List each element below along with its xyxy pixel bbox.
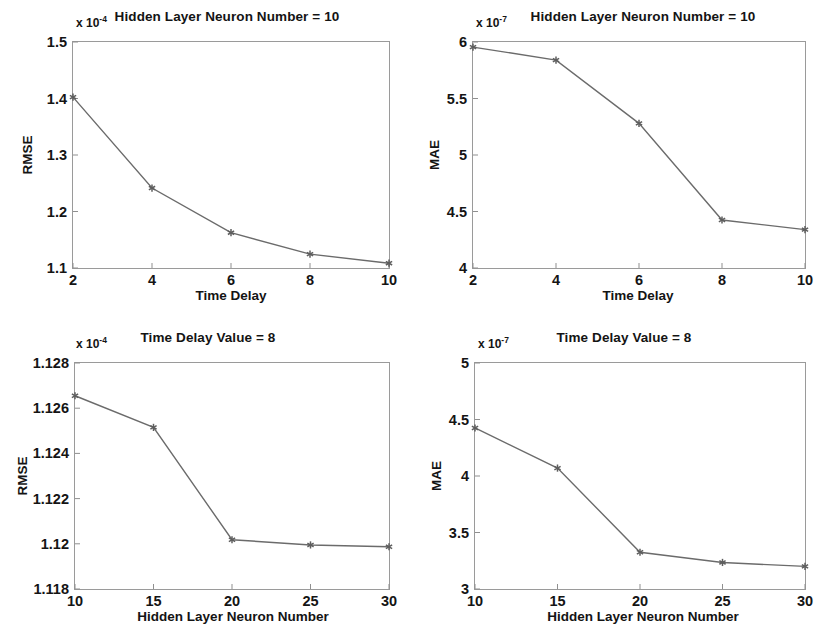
x-tick-label: 30 <box>797 593 813 609</box>
y-tick-label: 1.118 <box>34 581 70 597</box>
y-tick-label: 3.5 <box>449 525 469 541</box>
y-tick-label: 4 <box>461 468 469 484</box>
y-axis-label: MAE <box>427 140 442 170</box>
series-line <box>473 47 805 230</box>
series-line <box>475 428 805 566</box>
x-tick-label: 15 <box>145 593 161 609</box>
x-tick-label: 30 <box>381 593 397 609</box>
x-axis-label: Time Delay <box>195 288 266 303</box>
x-axis-label: Hidden Layer Neuron Number <box>547 609 738 624</box>
y-tick-label: 1.2 <box>47 204 67 220</box>
y-tick-label: 4 <box>459 260 467 276</box>
chart-panel-rmse-time-delay: Hidden Layer Neuron Number = 10 x 10-4 R… <box>0 0 416 321</box>
x-tick-label: 25 <box>714 593 730 609</box>
x-tick-label: 10 <box>381 272 397 288</box>
x-tick-label: 4 <box>148 272 156 288</box>
y-tick-label: 1.128 <box>33 355 69 371</box>
figure-canvas: Hidden Layer Neuron Number = 10 x 10-4 R… <box>0 0 832 642</box>
y-tick-label: 1.124 <box>33 445 69 461</box>
y-axis-exponent: x 10-4 <box>76 14 107 30</box>
x-tick-label: 6 <box>635 272 643 288</box>
series-line <box>75 396 389 547</box>
y-tick-label: 5.5 <box>447 91 467 107</box>
chart-title: Time Delay Value = 8 <box>0 330 416 345</box>
chart-title: Hidden Layer Neuron Number = 10 <box>0 9 416 24</box>
y-axis-exponent: x 10-7 <box>478 335 509 351</box>
chart-panel-mae-time-delay: Hidden Layer Neuron Number = 10 x 10-7 M… <box>416 0 832 321</box>
x-tick-label: 4 <box>552 272 560 288</box>
x-tick-label: 20 <box>632 593 648 609</box>
x-axis-label: Time Delay <box>602 288 673 303</box>
y-tick-label: 5 <box>461 355 469 371</box>
series-line <box>73 97 389 263</box>
y-tick-label: 1.5 <box>47 34 67 50</box>
y-tick-label: 4.5 <box>447 204 467 220</box>
x-tick-label: 20 <box>224 593 240 609</box>
y-axis-label: MAE <box>429 461 444 491</box>
plot-series-svg <box>473 42 807 270</box>
plot-series-svg <box>475 363 807 591</box>
y-tick-label: 1.126 <box>33 400 69 416</box>
x-tick-label: 8 <box>718 272 726 288</box>
y-axis-exponent: x 10-4 <box>76 335 107 351</box>
x-tick-label: 10 <box>67 593 83 609</box>
y-tick-label: 1.4 <box>47 91 67 107</box>
chart-panel-rmse-neuron-number: Time Delay Value = 8 x 10-4 RMSE Hidden … <box>0 321 416 642</box>
x-tick-label: 6 <box>227 272 235 288</box>
plot-area: 33.544.551015202530 <box>474 362 806 590</box>
plot-area: 44.555.56246810 <box>472 41 806 269</box>
x-tick-label: 2 <box>69 272 77 288</box>
plot-series-svg <box>75 363 391 591</box>
y-axis-label: RMSE <box>20 135 35 174</box>
plot-area: 1.1181.121.1221.1241.1261.1281015202530 <box>74 362 390 590</box>
data-point-marker <box>72 392 78 399</box>
y-tick-label: 4.5 <box>449 412 469 428</box>
y-tick-label: 1.12 <box>41 536 69 552</box>
x-tick-label: 10 <box>467 593 483 609</box>
x-axis-label: Hidden Layer Neuron Number <box>137 609 328 624</box>
y-axis-label: RMSE <box>15 456 30 495</box>
x-tick-label: 8 <box>306 272 314 288</box>
y-tick-label: 1.122 <box>33 491 69 507</box>
y-tick-label: 1.3 <box>47 147 67 163</box>
x-tick-label: 2 <box>469 272 477 288</box>
y-tick-label: 6 <box>459 34 467 50</box>
y-axis-exponent: x 10-7 <box>476 14 507 30</box>
plot-series-svg <box>73 42 391 270</box>
x-tick-label: 10 <box>797 272 813 288</box>
x-tick-label: 15 <box>549 593 565 609</box>
plot-area: 1.11.21.31.41.5246810 <box>72 41 390 269</box>
data-point-marker <box>472 424 478 431</box>
y-tick-label: 1.1 <box>47 260 67 276</box>
x-tick-label: 25 <box>302 593 318 609</box>
chart-panel-mae-neuron-number: Time Delay Value = 8 x 10-7 MAE Hidden L… <box>416 321 832 642</box>
y-tick-label: 5 <box>459 147 467 163</box>
